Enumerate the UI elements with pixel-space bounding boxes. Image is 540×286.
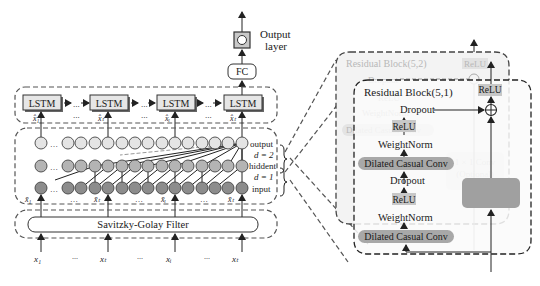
tcn-input-nodes	[35, 182, 248, 194]
svg-text:x̄ₜ: x̄ₜ	[227, 195, 235, 204]
output-layer-label-1: Output	[260, 28, 291, 40]
svg-text:…: …	[50, 185, 58, 194]
svg-text:...: ...	[205, 110, 212, 120]
fc-label: FC	[236, 66, 249, 77]
lstm-input-label: x̂₁	[32, 114, 40, 123]
fc-layer: FC	[228, 64, 256, 95]
right-panel: Residual Block(5,2) ReLU Dropout ReLU We…	[336, 40, 531, 272]
lstm-cell: LSTM x̂ᵢ	[157, 95, 197, 123]
lstm-cell: LSTM x̂ₜ	[224, 95, 264, 123]
hidden-label: hiddent	[249, 161, 276, 171]
d1-label: d = 1	[254, 172, 274, 182]
block-5-2-title: Residual Block(5,2)	[346, 58, 427, 70]
svg-text:x̄ᵢ: x̄ᵢ	[160, 195, 166, 204]
svg-text:...: ...	[204, 252, 210, 261]
svg-text:ReLU: ReLU	[464, 59, 486, 69]
svg-text:…: …	[200, 195, 208, 204]
lstm-input-label: x̂ₜ	[229, 114, 237, 123]
svg-text:ReLU: ReLU	[392, 122, 415, 132]
lstm-input-label: x̂ₜ	[97, 114, 105, 123]
tcn-output-nodes	[35, 137, 248, 149]
filter-label: Savitzky-Golay Filter	[97, 219, 189, 230]
block-5-1-title: Residual Block(5,1)	[364, 86, 453, 99]
svg-text:x̄₁: x̄₁	[24, 195, 32, 204]
weightnorm-2: WeightNorm	[378, 212, 433, 223]
output-layer: Output layer	[234, 12, 291, 64]
dropout-2: Dropout	[390, 175, 425, 186]
svg-text:Dilated Casual Conv: Dilated Casual Conv	[364, 158, 447, 169]
svg-text:LSTM: LSTM	[29, 98, 56, 109]
residual-block-5-1: Residual Block(5,1) ReLU Dropout ReLU We…	[354, 62, 531, 272]
svg-text:x̄ₜ: x̄ₜ	[93, 195, 101, 204]
svg-text:...: ...	[205, 99, 212, 109]
lstm-cell: LSTM x̂₁	[23, 95, 63, 123]
svg-text:...: ...	[73, 99, 80, 109]
conv1x1-skip-box	[462, 178, 520, 208]
raw-input-label: xₜ	[99, 254, 107, 264]
svg-text:...: ...	[72, 252, 78, 261]
raw-input-label: x₁	[33, 254, 41, 264]
lstm-row: LSTM x̂₁ ... ... LSTM x̂ₜ ... ... LSTM	[23, 95, 264, 138]
svg-text:Dilated Casual Conv: Dilated Casual Conv	[364, 231, 447, 242]
raw-input-label: xₜ	[231, 254, 239, 264]
svg-text:...: ...	[73, 110, 80, 120]
svg-text:…: …	[70, 195, 78, 204]
lstm-cell: LSTM x̂ₜ	[90, 95, 130, 123]
lstm-input-label: x̂ᵢ	[164, 114, 170, 123]
svg-text:...: ...	[141, 99, 148, 109]
svg-text:LSTM: LSTM	[96, 98, 123, 109]
svg-text:ReLU: ReLU	[478, 85, 501, 95]
left-panel: Output layer FC LSTM x̂₁ ... ...	[15, 12, 291, 264]
tcn-lstm-architecture-diagram: Output layer FC LSTM x̂₁ ... ...	[0, 0, 540, 286]
svg-text:...: ...	[137, 252, 143, 261]
svg-text:...: ...	[141, 110, 148, 120]
svg-text:…: …	[135, 195, 143, 204]
dropout-1: Dropout	[400, 104, 435, 115]
svg-text:ReLU: ReLU	[392, 195, 415, 205]
raw-input-label: xᵢ	[165, 254, 172, 264]
d2-label: d = 2	[254, 150, 274, 160]
svg-text:LSTM: LSTM	[163, 98, 190, 109]
output-label: output	[250, 139, 274, 149]
output-circle-icon	[238, 36, 247, 45]
svg-text:…: …	[50, 163, 58, 172]
input-label: input	[252, 184, 271, 194]
output-layer-label-2: layer	[265, 40, 287, 52]
brace-d1	[280, 168, 287, 196]
svg-text:…: …	[50, 140, 58, 149]
svg-text:LSTM: LSTM	[230, 98, 257, 109]
weightnorm-1: WeightNorm	[378, 139, 433, 150]
